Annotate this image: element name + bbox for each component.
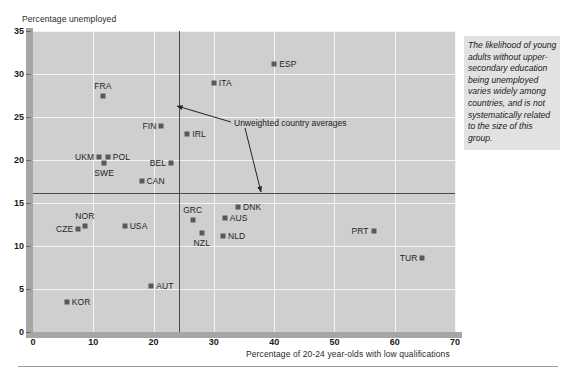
x-tick-label: 30: [199, 337, 229, 347]
x-tick-label: 0: [18, 337, 48, 347]
x-tick-label: 20: [139, 337, 169, 347]
y-tick-mark: [26, 332, 31, 333]
y-tick-mark: [26, 289, 31, 290]
x-tick-label: 40: [259, 337, 289, 347]
x-axis-title: Percentage of 20-24 year-olds with low q…: [246, 349, 450, 359]
x-tick-label: 50: [319, 337, 349, 347]
x-tick-label: 60: [380, 337, 410, 347]
y-tick-mark: [26, 246, 31, 247]
side-note-panel: The likelihood of young adults without u…: [464, 36, 560, 150]
y-tick-mark: [26, 203, 31, 204]
x-tick-label: 70: [440, 337, 470, 347]
x-tick-label: 10: [78, 337, 108, 347]
y-tick-mark: [26, 31, 31, 32]
bottom-divider: [18, 366, 558, 367]
annotation-unweighted-country-averages: Unweighted country averages: [234, 118, 346, 128]
y-tick-mark: [26, 160, 31, 161]
y-tick-mark: [26, 117, 31, 118]
y-tick-mark: [26, 74, 31, 75]
